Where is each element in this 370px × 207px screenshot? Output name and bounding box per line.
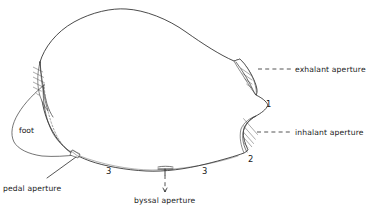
diagram-canvas: foot exhalant aperture inhalant aperture	[0, 0, 370, 207]
marker-3-left: 3	[106, 166, 111, 176]
marker-3-right: 3	[202, 166, 207, 176]
shell-outline	[40, 9, 268, 171]
exhalant-aperture-label: exhalant aperture	[295, 65, 366, 74]
foot-label: foot	[19, 126, 34, 135]
pedal-aperture-label: pedal aperture	[3, 184, 61, 193]
inhalant-aperture-label: inhalant aperture	[295, 128, 364, 137]
marker-1: 1	[266, 99, 271, 109]
bivalve-diagram: foot exhalant aperture inhalant aperture	[0, 0, 370, 207]
shell-outline-group	[40, 9, 268, 171]
marker-2: 2	[248, 154, 253, 164]
pedal-leader	[47, 157, 76, 178]
byssal-aperture-label: byssal aperture	[134, 196, 196, 205]
